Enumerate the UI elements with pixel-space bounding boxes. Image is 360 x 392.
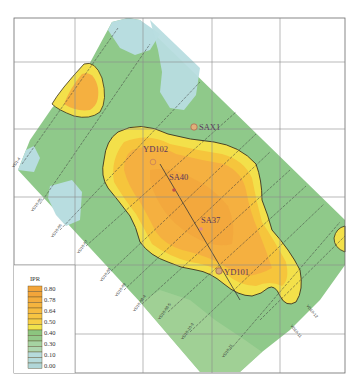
survey-line-label: YD10-09 xyxy=(114,281,128,297)
well-label: SAX1 xyxy=(199,122,220,132)
survey-line-label: YD10-11 xyxy=(289,323,303,339)
legend-value: 0.50 xyxy=(44,318,55,325)
legend-value: 0.10 xyxy=(44,351,55,358)
legend-title: IPR xyxy=(30,275,41,282)
well-label: YD101 xyxy=(224,267,249,277)
well-marker-icon xyxy=(172,188,176,192)
well-marker-icon xyxy=(216,268,222,274)
well-marker-icon xyxy=(191,124,197,130)
survey-line-label: YD10-08 xyxy=(99,266,113,282)
legend-value: 0.64 xyxy=(44,307,56,314)
well-label: YD102 xyxy=(143,144,168,154)
well-label: SA37 xyxy=(201,215,220,225)
legend-value: 0.00 xyxy=(44,362,55,369)
legend-value: 0.40 xyxy=(44,329,55,336)
survey-line-label: YD10-06 xyxy=(50,222,64,238)
legend: IPR 0.80 0.78 0.64 0.50 0.40 0.30 0.10 0… xyxy=(14,265,75,373)
survey-line-label: YD10-07 xyxy=(76,238,90,254)
legend-value: 0.30 xyxy=(44,340,55,347)
legend-value: 0.80 xyxy=(44,285,55,292)
well-marker-icon xyxy=(199,227,203,231)
anomaly-northwest xyxy=(52,63,105,117)
legend-value: 0.78 xyxy=(44,296,55,303)
legend-swatches xyxy=(28,286,42,369)
well-label: SA40 xyxy=(169,172,188,182)
ipr-contour-map: YD1-4 YD10-05 YD10-06 YD10-07 YD10-08 YD… xyxy=(0,0,360,392)
survey-line-label: YD10-05 xyxy=(30,196,44,212)
